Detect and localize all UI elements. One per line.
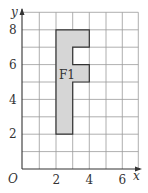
shape-label: F1 xyxy=(59,68,75,82)
origin-label: O xyxy=(8,172,18,186)
shape-f1 xyxy=(56,30,89,134)
x-tick-6: 6 xyxy=(119,173,127,187)
y-axis-arrow-icon xyxy=(20,8,25,15)
y-tick-6: 6 xyxy=(9,58,17,72)
x-tick-2: 2 xyxy=(53,173,61,187)
coordinate-grid-diagram: y x O 8 6 4 2 2 4 6 F1 xyxy=(0,0,148,193)
y-tick-4: 4 xyxy=(9,93,17,107)
y-tick-8: 8 xyxy=(9,23,17,37)
y-tick-2: 2 xyxy=(9,127,17,141)
x-axis-label: x xyxy=(133,169,140,183)
y-axis-label: y xyxy=(10,5,18,19)
x-tick-4: 4 xyxy=(86,173,94,187)
